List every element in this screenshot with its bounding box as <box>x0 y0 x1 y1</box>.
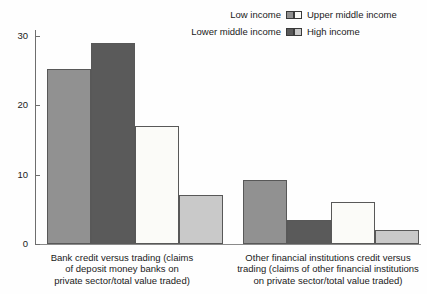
x-axis-label-line: of deposit money banks on <box>24 263 220 274</box>
x-axis-label-group-0: Bank credit versus trading (claimsof dep… <box>24 252 220 286</box>
bar-group-1-series-2 <box>331 202 375 244</box>
bar-group-0-series-2 <box>135 126 179 244</box>
bar-group-1-series-0 <box>243 180 287 244</box>
x-axis-label-line: Other financial institutions credit vers… <box>222 252 427 263</box>
x-axis-label-group-1: Other financial institutions credit vers… <box>222 252 427 286</box>
x-axis-label-line: on private sector/total value traded) <box>222 275 427 286</box>
y-axis-tick-label-20: 20 <box>2 100 28 110</box>
y-axis-tick-label-0: 0 <box>2 239 28 249</box>
x-axis-label-line: Bank credit versus trading (claims <box>24 252 220 263</box>
bar-chart-figure: Low income Upper middle income Lower mid… <box>0 0 427 294</box>
y-axis-line <box>35 30 36 245</box>
bar-group-0-series-3 <box>179 195 223 244</box>
y-axis-tick-label-10: 10 <box>2 170 28 180</box>
x-axis-label-line: trading (claims of other financial insti… <box>222 263 427 274</box>
y-axis-tick-label-30: 30 <box>2 31 28 41</box>
plot-area: 0102030 Bank credit versus trading (clai… <box>0 0 427 294</box>
x-axis-label-line: private sector/total value traded) <box>24 275 220 286</box>
bar-group-1-series-3 <box>375 230 419 244</box>
bar-group-0-series-0 <box>47 69 91 244</box>
y-axis-tick-30 <box>35 36 40 37</box>
bar-group-0-series-1 <box>91 43 135 244</box>
y-axis-tick-10 <box>35 175 40 176</box>
bar-group-1-series-1 <box>287 220 331 244</box>
x-axis-baseline <box>35 244 421 245</box>
y-axis-tick-0 <box>35 244 40 245</box>
y-axis-tick-20 <box>35 105 40 106</box>
